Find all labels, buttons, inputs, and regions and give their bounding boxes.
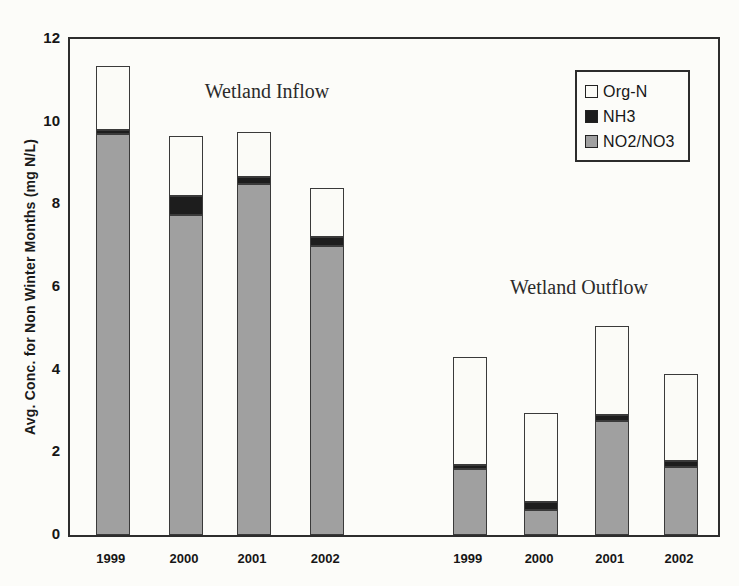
stacked-bar-inflow-2002 — [310, 188, 344, 535]
bar-segment-org-n — [96, 66, 130, 130]
x-tick-label: 2001 — [580, 551, 640, 566]
bar-segment-nh3 — [453, 465, 487, 469]
stacked-bar-outflow-2000 — [524, 413, 558, 535]
legend-label-no2-no3: NO2/NO3 — [603, 133, 675, 151]
bar-segment-nh3 — [664, 461, 698, 467]
bar-segment-org-n — [237, 132, 271, 177]
bar-segment-org-n — [595, 326, 629, 415]
bar-segment-nh3 — [237, 177, 271, 183]
bar-segment-org-n — [453, 357, 487, 464]
bar-segment-no2-no3 — [169, 215, 203, 535]
x-tick-label: 2002 — [295, 551, 355, 566]
stacked-bar-inflow-1999 — [96, 66, 130, 535]
bar-segment-nh3 — [169, 196, 203, 215]
stacked-bar-outflow-2001 — [595, 326, 629, 535]
legend: Org-N NH3 NO2/NO3 — [575, 70, 690, 162]
bar-segment-nh3 — [524, 502, 558, 510]
x-tick-label: 2002 — [649, 551, 709, 566]
y-tick-label: 0 — [32, 525, 60, 542]
legend-item-nh3: NH3 — [585, 104, 680, 129]
nh3-swatch-icon — [585, 110, 598, 123]
legend-item-org-n: Org-N — [585, 79, 680, 104]
y-tick-label: 6 — [32, 277, 60, 294]
bar-segment-nh3 — [96, 130, 130, 134]
bar-segment-no2-no3 — [237, 184, 271, 535]
stacked-bar-outflow-1999 — [453, 357, 487, 535]
y-tick-label: 10 — [32, 112, 60, 129]
legend-item-no2-no3: NO2/NO3 — [585, 129, 680, 154]
x-tick-label: 1999 — [438, 551, 498, 566]
bar-segment-no2-no3 — [664, 467, 698, 535]
stacked-bar-inflow-2001 — [237, 132, 271, 535]
stacked-bar-inflow-2000 — [169, 136, 203, 535]
bar-segment-no2-no3 — [595, 421, 629, 535]
bar-segment-no2-no3 — [524, 510, 558, 535]
y-tick-label: 12 — [32, 29, 60, 46]
bar-segment-nh3 — [310, 237, 344, 245]
y-tick-label: 4 — [32, 360, 60, 377]
bar-segment-nh3 — [595, 415, 629, 421]
chart-root: Avg. Conc. for Non Winter Months (mg N/L… — [0, 0, 739, 586]
bar-segment-org-n — [664, 374, 698, 461]
bar-segment-org-n — [310, 188, 344, 238]
stacked-bar-outflow-2002 — [664, 374, 698, 535]
x-tick-label: 2000 — [509, 551, 569, 566]
y-tick-label: 8 — [32, 194, 60, 211]
y-tick-label: 2 — [32, 442, 60, 459]
legend-label-nh3: NH3 — [603, 108, 636, 126]
group-label-inflow: Wetland Inflow — [205, 80, 329, 103]
bar-segment-no2-no3 — [453, 469, 487, 535]
x-tick-label: 2000 — [154, 551, 214, 566]
bar-segment-org-n — [524, 413, 558, 502]
bar-segment-no2-no3 — [96, 134, 130, 535]
org-n-swatch-icon — [585, 85, 598, 98]
group-label-outflow: Wetland Outflow — [510, 276, 648, 299]
bar-segment-no2-no3 — [310, 246, 344, 535]
x-tick-label: 1999 — [81, 551, 141, 566]
no2-no3-swatch-icon — [585, 135, 598, 148]
bar-segment-org-n — [169, 136, 203, 196]
plot-area: Wetland Inflow Wetland Outflow Org-N NH3… — [68, 37, 720, 537]
x-tick-label: 2001 — [222, 551, 282, 566]
legend-label-org-n: Org-N — [603, 83, 648, 101]
